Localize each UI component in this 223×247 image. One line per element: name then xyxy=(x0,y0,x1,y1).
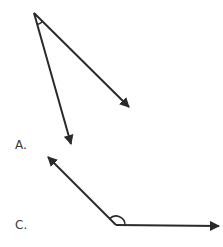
angle-c-ray-upleft xyxy=(48,157,116,225)
angle-diagrams-canvas xyxy=(0,0,223,247)
angle-c xyxy=(48,157,219,226)
angle-c-ray-right xyxy=(116,225,219,226)
angle-a xyxy=(34,13,129,144)
angle-a-label: A. xyxy=(15,139,27,151)
angle-a-arc xyxy=(37,21,42,24)
angle-c-label: C. xyxy=(15,219,27,231)
